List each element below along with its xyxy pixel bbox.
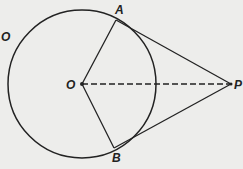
point-label-b: B xyxy=(112,152,121,164)
radius-ob xyxy=(82,84,114,148)
tangent-diagram: O A O P B xyxy=(0,0,243,169)
circle-label: O xyxy=(1,31,10,43)
point-label-p: P xyxy=(234,79,242,91)
point-p xyxy=(230,83,233,86)
radius-oa xyxy=(82,20,116,84)
point-label-a: A xyxy=(115,4,124,16)
tangent-pa xyxy=(116,20,231,84)
center-point-o xyxy=(80,82,84,86)
diagram-canvas xyxy=(0,0,243,169)
point-label-o: O xyxy=(66,79,75,91)
tangent-pb xyxy=(114,84,231,148)
